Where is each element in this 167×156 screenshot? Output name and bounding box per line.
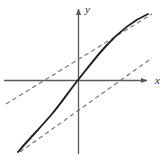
- graph-figure: y x: [0, 0, 167, 156]
- lower-asymptote-line: [20, 58, 152, 152]
- x-axis-label: x: [154, 74, 160, 86]
- plot-canvas: y x: [0, 0, 167, 156]
- curve-group: [18, 14, 148, 152]
- y-axis-label: y: [84, 3, 90, 15]
- axis-labels-group: y x: [84, 3, 160, 86]
- sigmoid-curve: [18, 14, 148, 152]
